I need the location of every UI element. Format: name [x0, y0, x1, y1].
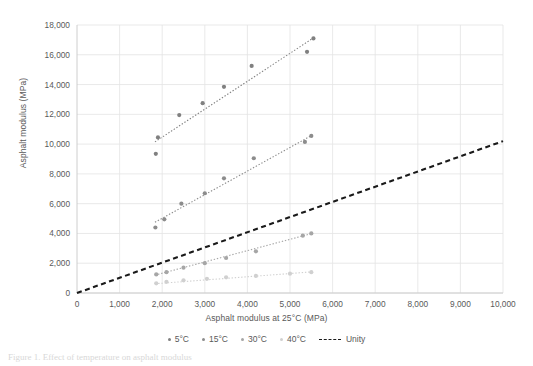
- y-tick-label: 14,000: [45, 80, 71, 90]
- legend-dot-icon: [280, 338, 283, 341]
- x-tick-label: 7,000: [365, 299, 386, 309]
- legend-label: 5°C: [175, 334, 189, 344]
- legend-label: 30°C: [248, 334, 267, 344]
- data-point: [154, 281, 158, 285]
- y-tick-label: 0: [65, 288, 70, 298]
- data-point: [154, 152, 158, 156]
- x-axis-title: Asphalt modulus at 25°C (MPa): [0, 313, 533, 323]
- data-point: [224, 275, 228, 279]
- data-point: [288, 272, 292, 276]
- data-point: [222, 176, 226, 180]
- x-tick-label: 4,000: [237, 299, 258, 309]
- legend-item-Unity[interactable]: Unity: [319, 334, 365, 344]
- data-point: [181, 278, 185, 282]
- legend-label: 40°C: [287, 334, 306, 344]
- data-point: [179, 202, 183, 206]
- data-point: [162, 217, 166, 221]
- x-tick-label: 2,000: [152, 299, 173, 309]
- legend-item-5C[interactable]: 5°C: [168, 334, 189, 344]
- data-point: [203, 191, 207, 195]
- data-point: [177, 113, 181, 117]
- x-tick-label: 0: [75, 299, 80, 309]
- data-point: [156, 135, 160, 139]
- legend-label: 15°C: [209, 334, 228, 344]
- data-point: [203, 261, 207, 265]
- legend-item-15C[interactable]: 15°C: [202, 334, 228, 344]
- figure-caption: Figure 1. Effect of temperature on aspha…: [8, 352, 438, 362]
- figure-container: 02,0004,0006,0008,00010,00012,00014,0001…: [0, 0, 533, 366]
- data-point: [153, 225, 157, 229]
- data-point: [201, 101, 205, 105]
- trendline: [155, 135, 312, 222]
- data-point: [301, 234, 305, 238]
- x-tick-label: 6,000: [322, 299, 343, 309]
- legend-item-30C[interactable]: 30°C: [241, 334, 267, 344]
- data-point: [250, 64, 254, 68]
- y-tick-label: 4,000: [49, 228, 70, 238]
- data-point: [224, 256, 228, 260]
- chart-legend: 5°C15°C30°C40°CUnity: [0, 334, 533, 344]
- data-point: [205, 277, 209, 281]
- data-point: [303, 140, 307, 144]
- x-tick-label: 1,000: [109, 299, 130, 309]
- grid-lines: [77, 25, 503, 293]
- x-tick-label: 3,000: [194, 299, 215, 309]
- data-point: [154, 272, 158, 276]
- series-15C: [153, 134, 313, 230]
- data-point: [309, 270, 313, 274]
- data-point: [254, 249, 258, 253]
- y-tick-label: 18,000: [45, 20, 71, 30]
- legend-dash-icon: [319, 339, 341, 340]
- legend-dot-icon: [202, 338, 205, 341]
- data-point: [181, 266, 185, 270]
- legend-label: Unity: [346, 334, 365, 344]
- trendline: [155, 233, 312, 275]
- data-point: [252, 156, 256, 160]
- data-point: [254, 274, 258, 278]
- series-5C: [154, 36, 316, 156]
- x-tick-label: 8,000: [407, 299, 428, 309]
- y-tick-label: 16,000: [45, 50, 71, 60]
- series-40C: [154, 270, 313, 285]
- data-point: [164, 280, 168, 284]
- data-point: [305, 50, 309, 54]
- y-tick-label: 8,000: [49, 169, 70, 179]
- y-tick-label: 6,000: [49, 199, 70, 209]
- data-point: [309, 134, 313, 138]
- legend-item-40C[interactable]: 40°C: [280, 334, 306, 344]
- data-point: [309, 231, 313, 235]
- y-tick-label: 12,000: [45, 109, 71, 119]
- scatter-chart: 02,0004,0006,0008,00010,00012,00014,0001…: [0, 0, 533, 366]
- data-point: [164, 270, 168, 274]
- legend-dot-icon: [168, 338, 171, 341]
- legend-dot-icon: [241, 338, 244, 341]
- y-tick-label: 2,000: [49, 258, 70, 268]
- x-tick-label: 9,000: [450, 299, 471, 309]
- x-tick-label: 10,000: [490, 299, 516, 309]
- data-point: [222, 85, 226, 89]
- data-point: [311, 36, 315, 40]
- x-tick-label: 5,000: [280, 299, 301, 309]
- y-axis-title: Asphalt modulus (MPa): [18, 38, 28, 208]
- y-tick-label: 10,000: [45, 139, 71, 149]
- axis-tick-labels: 02,0004,0006,0008,00010,00012,00014,0001…: [45, 20, 516, 309]
